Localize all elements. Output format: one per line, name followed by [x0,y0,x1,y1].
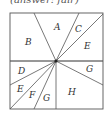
region-label-h: H [67,87,76,97]
ray-line [10,61,56,85]
ray-line [56,61,103,85]
region-label-d: D [17,66,25,76]
region-label-f: F [28,90,36,100]
region-label-c: C [75,24,82,34]
ray-line [56,14,103,61]
ray-line [56,13,79,61]
region-label-g: G [43,93,50,103]
region-label-a: A [53,22,61,32]
center-point [54,59,57,62]
region-label-b: B [24,37,32,47]
region-label-e: E [83,41,91,51]
region-label-g: G [86,64,93,74]
region-label-e: E [16,84,24,94]
ray-line [34,13,56,61]
divided-square-diagram: ABCEDGEFGH [0,0,108,114]
